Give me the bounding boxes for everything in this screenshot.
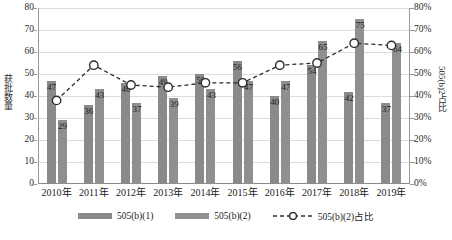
tickmark	[32, 162, 37, 163]
y-axis-right-tick-label: 40%	[414, 91, 450, 101]
tickmark	[32, 184, 37, 185]
y-axis-right-tick-label: 10%	[414, 157, 450, 167]
y-axis-right-tick-label: 80%	[414, 3, 450, 13]
tickmark	[410, 162, 415, 163]
chart-legend: 505(b)(1)505(b)(2)505(b)(2)占比	[0, 209, 452, 223]
tickmark	[32, 52, 37, 53]
tickmark	[32, 96, 37, 97]
tickmark	[410, 74, 415, 75]
tickmark	[32, 118, 37, 119]
ratio-line-marker	[52, 96, 60, 104]
y-axis-left-tick-label: 20	[8, 135, 34, 145]
tickmark	[32, 8, 37, 9]
tickmark	[410, 96, 415, 97]
y-axis-right-tick-label: 0%	[414, 179, 450, 189]
tickmark	[32, 140, 37, 141]
tickmark	[410, 118, 415, 119]
y-axis-left-tick-label: 40	[8, 91, 34, 101]
plot-area: 4729364346374939504356474047546542753764	[38, 8, 410, 184]
y-axis-right-tick-label: 50%	[414, 69, 450, 79]
legend-label: 505(b)(1)	[117, 211, 153, 221]
ratio-line-marker	[164, 83, 172, 91]
y-axis-right-tick-label: 20%	[414, 135, 450, 145]
ratio-line-marker	[313, 59, 321, 67]
tickmark	[32, 74, 37, 75]
y-axis-left-tick-label: 10	[8, 157, 34, 167]
bar-swatch-icon	[78, 213, 112, 219]
tickmark	[410, 8, 415, 9]
ratio-line-marker	[238, 79, 246, 87]
ratio-line-marker	[276, 61, 284, 69]
tickmark	[32, 30, 37, 31]
y-axis-left-tick-label: 80	[8, 3, 34, 13]
ratio-line-series	[38, 8, 410, 184]
legend-item[interactable]: 505(b)(2)	[175, 211, 250, 221]
x-axis-tick-label: 2019年	[369, 188, 413, 198]
y-axis-left-tick-label: 50	[8, 69, 34, 79]
y-axis-left-tick-label: 30	[8, 113, 34, 123]
legend-label: 505(b)(2)	[214, 211, 250, 221]
ratio-line-marker	[90, 61, 98, 69]
dashed-line-marker-icon	[273, 212, 313, 220]
ratio-line-marker	[387, 41, 395, 49]
chart-container: 获批数量 505(b)2占比 01020304050607080 0%10%20…	[0, 0, 452, 240]
y-axis-right-tick-label: 70%	[414, 25, 450, 35]
y-axis-left-tick-label: 60	[8, 47, 34, 57]
tickmark	[410, 140, 415, 141]
legend-item[interactable]: 505(b)(1)	[78, 211, 153, 221]
bar-swatch-icon	[175, 213, 209, 219]
legend-item[interactable]: 505(b)(2)占比	[273, 209, 374, 223]
ratio-line-marker	[127, 81, 135, 89]
y-axis-left-tick-label: 0	[8, 179, 34, 189]
ratio-line-marker	[201, 79, 209, 87]
ratio-line-path	[57, 43, 392, 100]
tickmark	[410, 184, 415, 185]
ratio-line-marker	[350, 39, 358, 47]
y-axis-right-tick-label: 60%	[414, 47, 450, 57]
tickmark	[410, 52, 415, 53]
y-axis-right-tick-label: 30%	[414, 113, 450, 123]
y-axis-left-tick-label: 70	[8, 25, 34, 35]
legend-label: 505(b)(2)占比	[318, 209, 374, 223]
tickmark	[410, 30, 415, 31]
